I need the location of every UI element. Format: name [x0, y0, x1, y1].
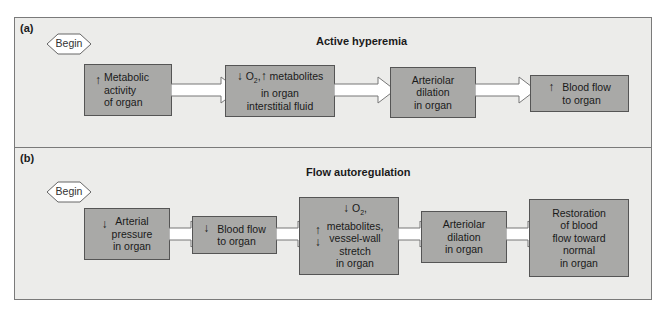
panel-label: (a): [20, 22, 33, 34]
arrow-down-icon: ↓: [203, 223, 209, 233]
panel-active-hyperemia: (a) Active hyperemia Begin ↑ Metabolic a…: [14, 17, 652, 148]
box-o2-metabolites-stretch: ↑↓ ↓ O2, metabolites, vessel-wall stretc…: [299, 197, 399, 275]
box-text: Blood flow to organ: [562, 81, 610, 106]
box-metabolic-activity: ↑ Metabolic activity of organ: [84, 64, 172, 116]
box-arteriolar-dilation: Arteriolar dilation in organ: [421, 211, 507, 263]
arrow-down-icon: ↓: [102, 219, 108, 229]
box-text: ↓ O2, metabolites, vessel-wall stretch i…: [327, 202, 384, 270]
box-restoration-of-flow: Restoration of blood flow toward normal …: [529, 199, 629, 277]
begin-marker: Begin: [46, 33, 92, 55]
box-text: Restoration of blood flow toward normal …: [552, 207, 606, 270]
arrow-up-down-icon: ↑↓: [315, 224, 321, 248]
arrow-down-icon: ↓: [237, 71, 243, 81]
box-text: Arterial pressure in organ: [112, 215, 153, 253]
box-text: ↓ O2,↑ metabolites in organ interstitial…: [237, 70, 324, 113]
box-o2-metabolites: ↓ O2,↑ metabolites in organ interstitial…: [225, 65, 335, 117]
box-text: Blood flow to organ: [217, 223, 265, 248]
box-arterial-pressure: ↓ Arterial pressure in organ: [84, 208, 170, 260]
box-text: Arteriolar dilation in organ: [443, 218, 486, 256]
arrow-up-icon: ↑: [95, 75, 101, 85]
panel-title: Active hyperemia: [316, 35, 407, 47]
begin-marker: Begin: [46, 181, 92, 203]
box-text: Arteriolar dilation in organ: [412, 74, 455, 112]
arrow-down-icon: ↓: [343, 203, 349, 213]
flow-arrow-icon: [475, 76, 537, 104]
flow-arrow-icon: [334, 76, 396, 104]
arrow-up-icon: ↑: [548, 82, 554, 92]
panel-label: (b): [20, 152, 34, 164]
begin-label: Begin: [46, 185, 92, 197]
box-text: Metabolic activity of organ: [104, 71, 149, 109]
panel-title: Flow autoregulation: [306, 166, 411, 178]
box-blood-flow-increase: ↑ Blood flow to organ: [530, 75, 629, 112]
box-blood-flow-decrease: ↓ Blood flow to organ: [192, 216, 277, 254]
begin-label: Begin: [46, 37, 92, 49]
box-arteriolar-dilation: Arteriolar dilation in organ: [390, 67, 476, 118]
panel-flow-autoregulation: (b) Flow autoregulation Begin ↓ Arterial…: [14, 147, 652, 300]
